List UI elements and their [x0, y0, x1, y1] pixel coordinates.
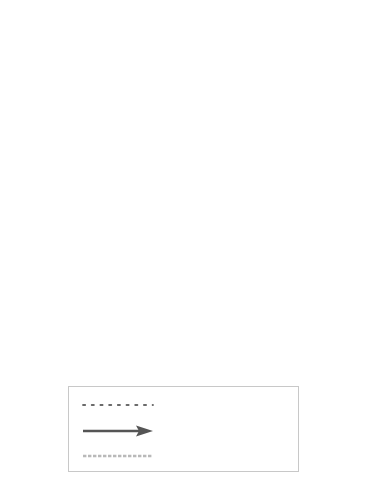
arrow-sample — [81, 420, 155, 442]
equipotential-line-sample — [81, 445, 155, 467]
legend-item-field-vector — [69, 417, 298, 445]
legend-item-field-line — [69, 391, 298, 419]
legend — [68, 386, 299, 472]
dotted-line-sample — [81, 394, 155, 416]
legend-item-equipotential — [69, 442, 298, 470]
